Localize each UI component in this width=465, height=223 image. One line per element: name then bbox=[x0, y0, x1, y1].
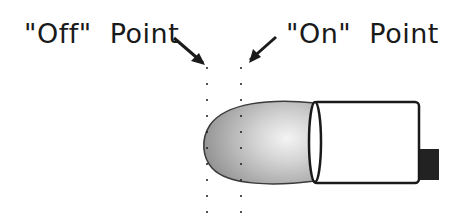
led-diagram bbox=[0, 0, 465, 223]
led-bulb bbox=[204, 101, 315, 184]
off-point-arrow-icon bbox=[174, 38, 205, 65]
led-body bbox=[309, 102, 419, 183]
led-tab bbox=[420, 149, 439, 180]
on-point-arrow-icon bbox=[249, 37, 276, 63]
